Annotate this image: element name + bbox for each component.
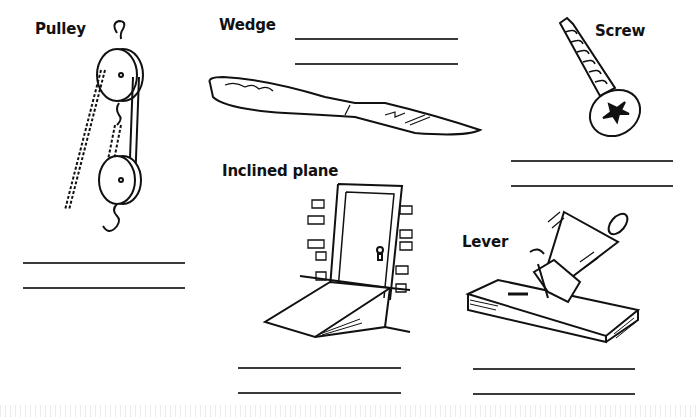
ramp-door-icon bbox=[260, 180, 420, 340]
wedge-answer-line-1[interactable] bbox=[295, 38, 458, 40]
inclined-plane-label: Inclined plane bbox=[222, 162, 338, 180]
hammer-nail-icon bbox=[468, 202, 638, 342]
wedge-label: Wedge bbox=[219, 16, 276, 34]
lever-answer-line-1[interactable] bbox=[473, 368, 635, 370]
lever-answer-line-2[interactable] bbox=[473, 393, 635, 395]
bottom-edge-artifact bbox=[0, 405, 696, 417]
inclined-plane-answer-line-2[interactable] bbox=[238, 392, 401, 394]
wedge-answer-line-2[interactable] bbox=[295, 63, 458, 65]
pulley-answer-line-2[interactable] bbox=[23, 287, 185, 289]
screw-answer-line-1[interactable] bbox=[511, 160, 673, 162]
pulley-icon bbox=[55, 15, 155, 235]
knife-wedge-icon bbox=[205, 75, 485, 140]
screw-icon bbox=[555, 18, 665, 138]
pulley-answer-line-1[interactable] bbox=[23, 262, 185, 264]
screw-answer-line-2[interactable] bbox=[511, 185, 673, 187]
inclined-plane-answer-line-1[interactable] bbox=[238, 367, 401, 369]
